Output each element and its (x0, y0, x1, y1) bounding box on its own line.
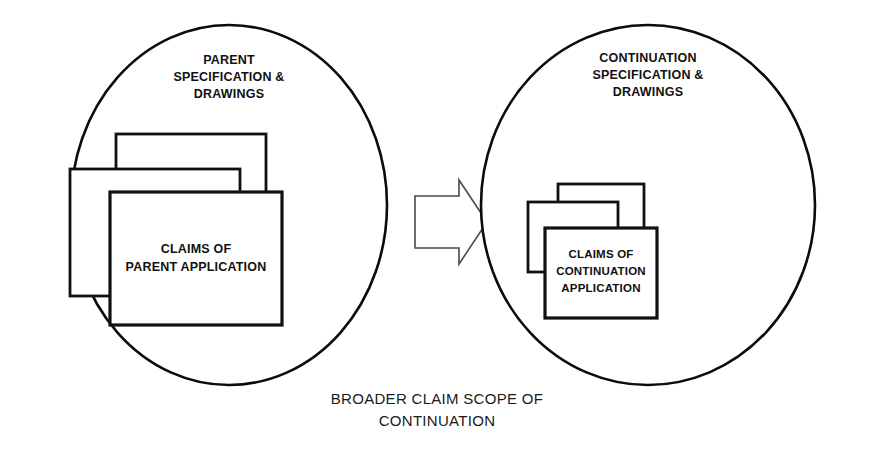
parent-claims-box (110, 192, 282, 325)
parent-claims-label-line-1: CLAIMS OF (161, 242, 232, 256)
transition-arrow-group (415, 180, 487, 264)
parent-claims-label-line-2: PARENT APPLICATION (126, 260, 267, 274)
parent-heading-line-1: PARENT (203, 53, 255, 67)
continuation-claims-label-line-3: APPLICATION (561, 282, 640, 294)
parent-heading-line-2: SPECIFICATION & (173, 70, 284, 84)
parent-heading-line-3: DRAWINGS (194, 87, 264, 101)
right-group-continuation: CONTINUATION SPECIFICATION & DRAWINGS CL… (481, 25, 815, 385)
caption-line-1: BROADER CLAIM SCOPE OF (331, 390, 543, 407)
continuation-claims-label-line-1: CLAIMS OF (568, 248, 633, 260)
continuation-heading-line-1: CONTINUATION (599, 51, 696, 65)
diagram-canvas: PARENT SPECIFICATION & DRAWINGS CLAIMS O… (0, 0, 872, 456)
left-group-parent: PARENT SPECIFICATION & DRAWINGS CLAIMS O… (70, 25, 387, 385)
caption-line-2: CONTINUATION (379, 412, 496, 429)
continuation-heading-line-2: SPECIFICATION & (592, 68, 703, 82)
diagram-caption: BROADER CLAIM SCOPE OF CONTINUATION (331, 390, 543, 429)
right-arrow-icon (415, 180, 487, 264)
continuation-diagram: PARENT SPECIFICATION & DRAWINGS CLAIMS O… (0, 0, 872, 456)
continuation-claims-label-line-2: CONTINUATION (556, 265, 646, 277)
continuation-heading-line-3: DRAWINGS (613, 85, 683, 99)
